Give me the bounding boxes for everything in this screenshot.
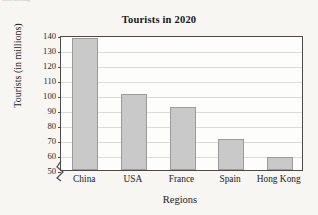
y-axis-title: Tourists (in millions) bbox=[12, 11, 23, 121]
plot-area bbox=[60, 36, 303, 171]
x-axis-tick-label: China bbox=[73, 174, 95, 184]
x-axis-tick-label: USA bbox=[124, 174, 143, 184]
axis-break-icon bbox=[52, 160, 68, 182]
bar-chart-figure: Tourists in 2020 Tourists (in millions) … bbox=[0, 0, 318, 215]
y-axis-tick-label: 80 bbox=[32, 121, 56, 131]
x-axis-tick-label: France bbox=[169, 174, 195, 184]
y-axis-tick-mark bbox=[58, 67, 62, 68]
x-axis-title: Regions bbox=[56, 194, 304, 205]
bar-china bbox=[72, 38, 98, 170]
x-axis-tick-label: Hong Kong bbox=[257, 174, 301, 184]
chart-title: Tourists in 2020 bbox=[0, 14, 318, 25]
y-axis-tick-label: 100 bbox=[32, 91, 56, 101]
y-axis-tick-mark bbox=[58, 97, 62, 98]
y-axis-tick-label: 90 bbox=[32, 106, 56, 116]
y-axis-tick-mark bbox=[58, 82, 62, 83]
y-axis-tick-label: 110 bbox=[32, 76, 56, 86]
y-axis-tick-mark bbox=[58, 52, 62, 53]
y-axis-tick-mark bbox=[58, 127, 62, 128]
y-axis-tick-mark bbox=[58, 157, 62, 158]
y-axis-tick-label: 130 bbox=[32, 46, 56, 56]
y-axis-tick-label: 140 bbox=[32, 31, 56, 41]
y-axis-tick-label: 70 bbox=[32, 136, 56, 146]
y-axis-tick-mark bbox=[58, 112, 62, 113]
y-axis-tick-mark bbox=[58, 37, 62, 38]
bar-spain bbox=[218, 139, 244, 171]
bar-france bbox=[170, 107, 196, 170]
bar-usa bbox=[121, 94, 147, 171]
bar-hong-kong bbox=[267, 157, 293, 170]
y-axis-tick-mark bbox=[58, 142, 62, 143]
x-axis-tick-label: Spain bbox=[219, 174, 240, 184]
y-axis-tick-label: 120 bbox=[32, 61, 56, 71]
